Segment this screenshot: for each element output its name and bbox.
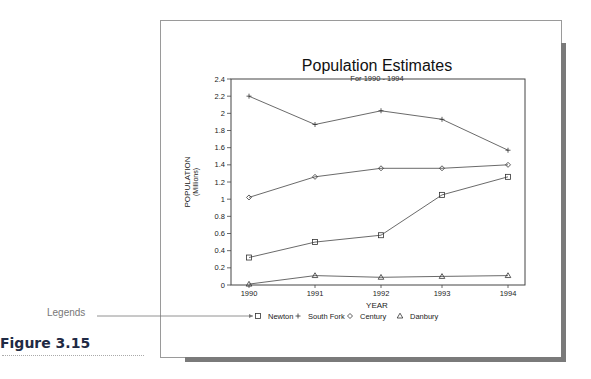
line-chart: Population Estimates For 1990 - 1994 00.…	[0, 0, 591, 379]
y-tick-label: 1.4	[215, 160, 225, 169]
series-newton	[247, 174, 511, 260]
plus-marker-icon	[313, 122, 318, 127]
y-tick-label: 2.2	[215, 92, 225, 101]
plus-marker-icon	[440, 117, 445, 122]
y-tick-label: 2	[221, 109, 225, 118]
svg-text:POPULATION: POPULATION	[183, 156, 192, 207]
series-century	[247, 162, 511, 200]
y-tick-label: 0.4	[215, 246, 225, 255]
legends-callout-label: Legends	[47, 307, 85, 318]
legend-item-south-fork: South Fork	[296, 312, 345, 321]
series-line	[249, 165, 508, 198]
x-axis-label: YEAR	[366, 301, 388, 310]
plus-marker-icon	[506, 148, 511, 153]
y-axis-label: POPULATION (Millions)	[183, 156, 200, 207]
chart-legend: NewtonSouth ForkCenturyDanbury	[256, 312, 439, 321]
series-danbury	[246, 273, 511, 286]
chart-title: Population Estimates	[302, 57, 452, 74]
y-tick-label: 0	[221, 281, 225, 290]
legend-item-danbury: Danbury	[397, 312, 438, 321]
y-tick-label: 2.4	[215, 75, 225, 84]
x-tick-label: 1991	[307, 289, 324, 298]
x-tick-label: 1992	[373, 289, 390, 298]
legend-label: Century	[360, 312, 387, 321]
plus-marker-icon	[296, 314, 301, 319]
square-marker-icon	[256, 314, 261, 319]
x-axis: 19901991199219931994	[241, 285, 517, 298]
y-tick-label: 0.8	[215, 212, 225, 221]
series-group	[246, 94, 511, 286]
triangle-marker-icon	[312, 273, 318, 278]
legend-label: Danbury	[410, 312, 439, 321]
plot-area	[231, 79, 525, 285]
y-tick-label: 0.2	[215, 263, 225, 272]
y-tick-label: 1.8	[215, 126, 225, 135]
diamond-marker-icon	[348, 314, 353, 319]
x-tick-label: 1993	[434, 289, 451, 298]
diamond-marker-icon	[247, 195, 252, 200]
x-tick-label: 1994	[500, 289, 517, 298]
x-tick-label: 1990	[241, 289, 258, 298]
svg-text:(Millions): (Millions)	[192, 168, 200, 196]
triangle-marker-icon	[397, 313, 403, 318]
legends-callout-arrow-icon	[249, 314, 253, 318]
legend-label: Newton	[268, 312, 293, 321]
square-marker-icon	[247, 255, 252, 260]
y-tick-label: 1.2	[215, 178, 225, 187]
legend-label: South Fork	[308, 312, 345, 321]
y-tick-label: 1	[221, 195, 225, 204]
y-axis: 00.20.40.60.811.21.41.61.822.22.4	[215, 75, 231, 290]
series-line	[249, 177, 508, 258]
plus-marker-icon	[247, 94, 252, 99]
series-line	[249, 96, 508, 150]
figure-divider	[2, 355, 144, 356]
series-south-fork	[247, 94, 511, 153]
series-line	[249, 276, 508, 285]
y-tick-label: 0.6	[215, 229, 225, 238]
legend-item-century: Century	[348, 312, 387, 321]
y-tick-label: 1.6	[215, 143, 225, 152]
legend-item-newton: Newton	[256, 312, 294, 321]
triangle-marker-icon	[505, 273, 511, 278]
figure-number: Figure 3.15	[0, 335, 90, 351]
plus-marker-icon	[379, 108, 384, 113]
